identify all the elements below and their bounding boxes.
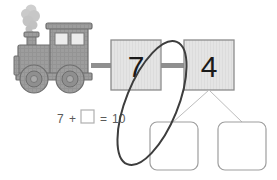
coupling-car1-to-car2: [160, 63, 184, 68]
worksheet-illustration: 7 4 7 + = 10: [0, 0, 277, 180]
worksheet-canvas: 7 4 7 + = 10: [0, 0, 277, 180]
answer-box-right[interactable]: [218, 122, 266, 170]
smoke-icon: [21, 5, 40, 36]
train-car-7[interactable]: 7: [111, 40, 161, 90]
train-wheel-front: [20, 65, 48, 93]
cab-window-right: [71, 33, 84, 45]
equation-plus-sign: +: [69, 112, 76, 126]
equation-left-number: 7: [57, 112, 64, 126]
train-engine: [14, 23, 92, 93]
equation-equals-sign: =: [100, 112, 107, 126]
train-car-4[interactable]: 4: [184, 40, 234, 90]
cab-window-left: [55, 33, 68, 45]
train-car-4-label: 4: [201, 50, 218, 83]
equation: 7 + = 10: [57, 110, 126, 126]
train-wheel-rear: [56, 65, 84, 93]
equation-blank-box[interactable]: [81, 110, 94, 123]
connector-line-right: [209, 90, 243, 123]
